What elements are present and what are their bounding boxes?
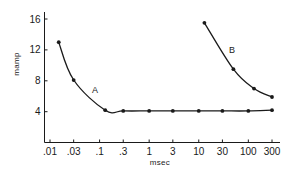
data-point-marker (197, 109, 201, 113)
x-tick-label: .03 (67, 146, 81, 157)
x-axis-label: msec (150, 158, 170, 167)
y-tick-label: 8 (35, 75, 41, 86)
x-tick-label: 1 (146, 146, 152, 157)
series-group: AB (57, 21, 274, 113)
data-point-marker (171, 109, 175, 113)
data-point-marker (57, 40, 61, 44)
data-point-marker (103, 108, 107, 112)
data-point-marker (203, 21, 207, 25)
x-tick-label: 300 (264, 146, 281, 157)
series-b: B (203, 21, 274, 99)
x-tick-label: 10 (193, 146, 205, 157)
data-point-marker (72, 78, 76, 82)
series-a: A (57, 40, 274, 113)
y-axis-label: mamp (12, 52, 21, 76)
x-tick-label: 100 (240, 146, 257, 157)
y-tick-label: 16 (29, 14, 41, 25)
x-tick-label: .01 (43, 146, 57, 157)
axes (45, 12, 281, 143)
data-point-marker (221, 109, 225, 113)
x-tick-label: 3 (170, 146, 176, 157)
y-tick-label: 12 (29, 44, 41, 55)
x-tick-label: .3 (119, 146, 128, 157)
x-tick-label: 30 (217, 146, 229, 157)
chart: .01.03.1.3131030100300 481216 AB msec ma… (0, 0, 295, 175)
data-point-marker (270, 95, 274, 99)
data-point-marker (270, 108, 274, 112)
series-line (204, 23, 272, 97)
data-point-marker (147, 109, 151, 113)
data-point-marker (246, 109, 250, 113)
data-point-marker (232, 67, 236, 71)
y-tick-label: 4 (35, 106, 41, 117)
series-label: B (229, 45, 235, 55)
series-label: A (92, 85, 98, 95)
data-point-marker (121, 109, 125, 113)
x-tick-label: .1 (95, 146, 104, 157)
data-point-marker (252, 87, 256, 91)
